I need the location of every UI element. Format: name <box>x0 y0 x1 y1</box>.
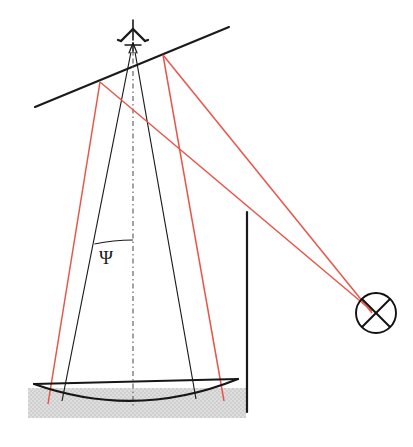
beam-edge-right <box>135 52 196 399</box>
red-ray-left-to-target <box>100 82 372 311</box>
red-ray-right-down <box>163 55 224 401</box>
reflector-chord <box>34 379 238 384</box>
slope-horizon-line <box>35 27 229 107</box>
circled-x-target-icon <box>356 293 396 333</box>
optical-geometry-diagram: Ψ <box>0 0 413 447</box>
diagram-canvas: Ψ <box>0 0 413 447</box>
red-ray-left-down <box>48 82 100 404</box>
red-ray-right-to-target <box>163 55 372 313</box>
psi-angle-label: Ψ <box>99 247 113 268</box>
antenna-tower-icon <box>118 20 148 53</box>
psi-angle-arc <box>95 240 134 244</box>
